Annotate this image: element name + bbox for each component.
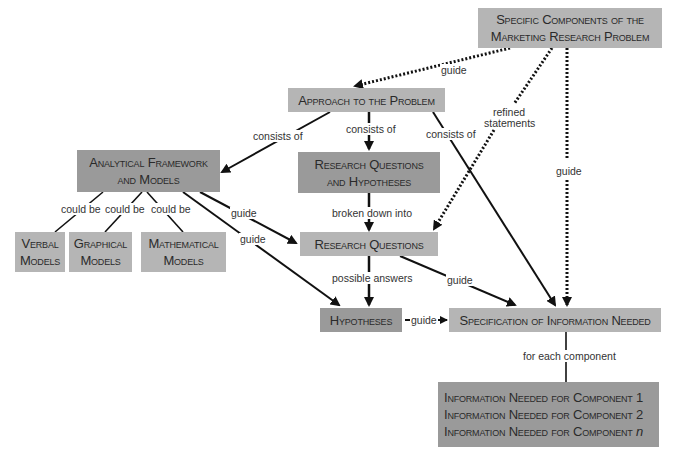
label-guide-af-hyp: guide xyxy=(239,233,267,245)
label-guide-af-rq: guide xyxy=(230,207,258,219)
label-could-be-1: could be xyxy=(60,203,102,215)
node-rq-hypotheses: Research Questions and Hypotheses xyxy=(298,152,440,193)
label-consists-center: consists of xyxy=(345,123,397,135)
concept-diagram: Specific Components of the Marketing Res… xyxy=(0,0,676,461)
label-guide-hyp-spec: guide xyxy=(410,314,438,326)
label-could-be-3: could be xyxy=(150,203,192,215)
node-research-questions: Research Questions xyxy=(300,232,438,256)
label-guide-rq-spec: guide xyxy=(446,274,474,286)
label-broken-down: broken down into xyxy=(331,207,413,219)
node-hypotheses: Hypotheses xyxy=(320,308,402,332)
node-approach: Approach to the Problem xyxy=(288,88,445,112)
node-information-needed: Information Needed for Component 1 Infor… xyxy=(438,382,659,447)
label-for-each-component: for each component xyxy=(522,350,617,362)
label-consists-right: consists of xyxy=(425,128,477,140)
node-specific-components: Specific Components of the Marketing Res… xyxy=(478,8,662,48)
node-specification: Specification of Information Needed xyxy=(449,308,661,332)
label-consists-left: consists of xyxy=(252,130,304,142)
label-statements: statements xyxy=(483,117,536,129)
node-mathematical-models: Mathematical Models xyxy=(141,232,226,272)
label-possible-answers: possible answers xyxy=(331,272,414,284)
edge-refined-statements xyxy=(514,48,552,104)
info-row-n: Information Needed for Component n xyxy=(444,423,643,440)
node-analytical-framework: Analytical Framework and Models xyxy=(77,150,220,192)
info-row-1: Information Needed for Component 1 xyxy=(444,389,643,406)
node-verbal-models: Verbal Models xyxy=(15,232,65,272)
label-guide-top: guide xyxy=(440,64,468,76)
node-graphical-models: Graphical Models xyxy=(69,232,132,272)
label-could-be-2: could be xyxy=(104,203,146,215)
info-row-2: Information Needed for Component 2 xyxy=(444,406,643,423)
edge-guide-approach xyxy=(355,48,510,86)
label-guide-right: guide xyxy=(555,165,583,177)
